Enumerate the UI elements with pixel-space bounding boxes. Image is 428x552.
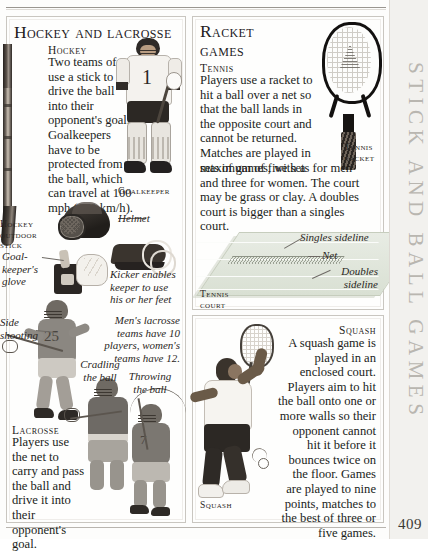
- leader-line-net: [308, 256, 320, 257]
- caption-throwing-the-ball: Throwing the ball: [126, 370, 174, 395]
- caption-singles-sideline: Singles sideline: [300, 231, 369, 244]
- caption-kicker: Kicker enables keeper to use his or her …: [110, 268, 180, 306]
- top-rule-secondary: [6, 9, 386, 10]
- body-tennis-wide: maximum of five sets for men and three f…: [200, 161, 372, 234]
- goalkeeper-illustration: 1: [114, 38, 182, 178]
- caption-lacrosse-teams-note: Men's lacrosse teams have 10 players, wo…: [92, 314, 180, 364]
- lacrosse-player-throwing: 7: [124, 404, 186, 516]
- caption-hockey-outdoor-stick: Hockey outdoor stick: [0, 219, 44, 251]
- caption-tennis-racket: Tennis racket: [344, 142, 380, 163]
- caption-goalkeepers-glove: Goal-keeper's glove: [2, 250, 46, 288]
- goalkeepers-glove-illustration: [54, 250, 108, 296]
- hockey-stick-illustration: [0, 44, 18, 244]
- caption-helmet: Helmet: [118, 212, 150, 225]
- chapter-side-tab: STICK AND BALL GAMES 409: [389, 0, 428, 539]
- caption-goalkeeper: Goalkeeper: [118, 186, 178, 197]
- page-title-racket-games: Racket games: [200, 22, 290, 60]
- caption-net: Net: [322, 249, 337, 262]
- caption-tennis-court: Tennis court: [200, 289, 236, 310]
- page-number: 409: [398, 516, 422, 533]
- caption-side-shooting: Side shooting: [0, 316, 40, 341]
- chapter-side-tab-label: STICK AND BALL GAMES: [390, 4, 428, 476]
- top-rule: [6, 7, 386, 8]
- body-squash: A squash game is played in an enclosed c…: [278, 336, 376, 540]
- caption-cradling-the-ball: Cradling the ball: [78, 358, 122, 383]
- body-lacrosse: Players use the net to carry and pass th…: [12, 435, 86, 552]
- caption-doubles-sideline: Doubles sideline: [332, 265, 378, 290]
- subhead-squash: Squash: [292, 324, 376, 336]
- helmet-illustration: [56, 202, 114, 244]
- body-tennis-narrow: Players use a racket to hit a ball over …: [200, 73, 314, 175]
- caption-squash: Squash: [200, 500, 240, 511]
